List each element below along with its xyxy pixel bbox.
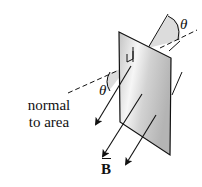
theta-label-top: θ (180, 17, 187, 32)
normal-label-line2: to area (22, 114, 76, 131)
top-angle-wedge (148, 14, 180, 48)
magnetic-field-label: B (101, 162, 111, 177)
normal-to-area-label: normal to area (22, 97, 76, 131)
flux-diagram: θ θ normal to area B (0, 0, 202, 187)
theta-label-left: θ (99, 83, 106, 98)
area-plate (119, 32, 171, 155)
field-line-right (172, 72, 182, 95)
normal-label-line1: normal (22, 97, 76, 114)
vector-bar (102, 158, 111, 159)
